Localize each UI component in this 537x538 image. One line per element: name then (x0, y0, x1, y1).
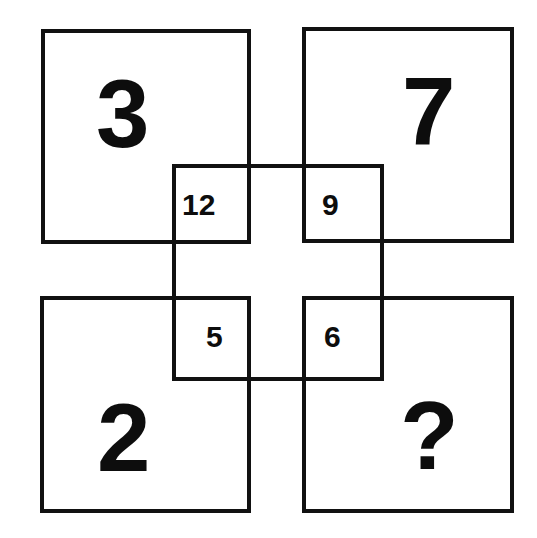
bottom-right-value-unknown: ? (400, 388, 458, 484)
inner-cell-bottom-left: 5 (176, 297, 252, 377)
bottom-left-value: 2 (97, 390, 149, 486)
top-right-value: 7 (402, 64, 454, 160)
top-left-value: 3 (96, 66, 148, 162)
inner-cell-top-right: 9 (302, 168, 380, 244)
inner-cell-bottom-right: 6 (302, 297, 380, 377)
inner-cell-bottom-right-value: 6 (324, 322, 341, 352)
inner-cell-top-left: 12 (176, 168, 252, 244)
inner-cell-top-left-value: 12 (182, 190, 215, 220)
inner-cell-bottom-left-value: 5 (206, 322, 223, 352)
inner-cell-top-right-value: 9 (322, 190, 339, 220)
puzzle-canvas: 3 7 2 ? 12 9 5 6 (0, 0, 537, 538)
